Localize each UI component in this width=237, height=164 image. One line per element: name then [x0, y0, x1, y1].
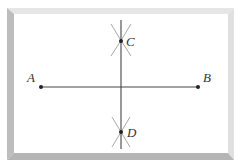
frame-right [228, 8, 234, 160]
label-c: C [126, 34, 135, 49]
frame-top [7, 8, 234, 14]
point-a [39, 85, 43, 89]
point-b [196, 85, 200, 89]
frame-bottom [7, 153, 234, 160]
point-d [119, 130, 123, 134]
diagram-canvas: A B C D [0, 0, 237, 164]
label-b: B [203, 70, 211, 85]
label-a: A [26, 70, 35, 85]
frame-left [7, 8, 14, 160]
diagram-frame: A B C D [0, 0, 237, 164]
label-d: D [126, 125, 137, 140]
point-c [119, 39, 123, 43]
